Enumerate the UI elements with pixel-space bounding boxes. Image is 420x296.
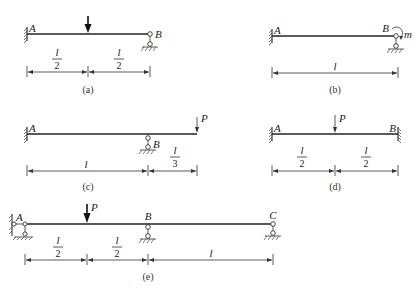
load-arrow-icon	[195, 117, 199, 133]
svg-text:2: 2	[56, 248, 61, 259]
panel-c: A P B l l 3 (c)	[24, 112, 208, 193]
svg-text:2: 2	[364, 158, 369, 169]
svg-text:l: l	[364, 144, 367, 156]
svg-text:3: 3	[173, 158, 178, 169]
label-b: B	[145, 210, 152, 222]
svg-text:l: l	[173, 144, 176, 156]
label-a: A	[28, 122, 36, 134]
dimension-line	[27, 165, 197, 176]
label-b: B	[389, 122, 396, 134]
panel-d: A B P l 2 l 2 (d)	[269, 112, 401, 193]
load-arrow-icon	[84, 204, 91, 223]
label-a: A	[273, 122, 281, 134]
label-load: P	[200, 112, 208, 124]
panel-b: A B m l (b)	[269, 22, 412, 96]
svg-text:l: l	[115, 234, 118, 246]
dimension-line	[272, 165, 398, 176]
svg-text:l: l	[117, 46, 120, 58]
fixed-support-icon	[24, 127, 27, 143]
svg-text:2: 2	[115, 248, 120, 259]
label-a: A	[15, 211, 23, 223]
dimension-line	[27, 66, 150, 77]
svg-text:l: l	[55, 46, 58, 58]
fixed-support-icon	[269, 29, 272, 45]
caption: (d)	[329, 181, 341, 193]
fraction-label: l 2	[52, 46, 62, 71]
panel-e: A P B C	[9, 201, 281, 283]
load-arrow-icon	[333, 115, 337, 133]
dimension-label: l	[209, 247, 212, 259]
label-b: B	[153, 138, 160, 150]
beam-diagrams: A B l 2	[0, 0, 420, 296]
load-arrow-icon	[85, 16, 92, 33]
fraction-label: l 2	[112, 234, 122, 259]
label-b: B	[382, 22, 389, 34]
caption: (b)	[329, 84, 341, 96]
svg-text:2: 2	[117, 60, 122, 71]
dimension-label: l	[84, 158, 87, 170]
fixed-support-icon	[24, 27, 27, 43]
panel-a: A B l 2	[24, 16, 162, 96]
svg-text:2: 2	[55, 60, 60, 71]
dimension-line	[25, 254, 273, 265]
caption: (c)	[82, 181, 93, 193]
caption: (a)	[82, 84, 93, 96]
label-b: B	[155, 28, 162, 40]
label-load: P	[338, 112, 346, 124]
fraction-label: l 3	[170, 144, 180, 169]
fraction-label: l 2	[53, 234, 63, 259]
fixed-support-icon	[269, 127, 272, 143]
roller-support-icon	[139, 225, 156, 243]
label-a: A	[28, 22, 36, 34]
svg-text:l: l	[300, 144, 303, 156]
label-moment: m	[404, 28, 412, 40]
fraction-label: l 2	[361, 144, 371, 169]
fraction-label: l 2	[114, 46, 124, 71]
label-c: C	[269, 209, 277, 221]
fraction-label: l 2	[297, 144, 307, 169]
caption: (e)	[142, 271, 153, 283]
label-a: A	[273, 24, 281, 36]
label-load: P	[90, 201, 98, 213]
fixed-support-icon	[398, 127, 401, 143]
dimension-label: l	[333, 60, 336, 72]
svg-text:2: 2	[300, 158, 305, 169]
svg-text:l: l	[56, 234, 59, 246]
